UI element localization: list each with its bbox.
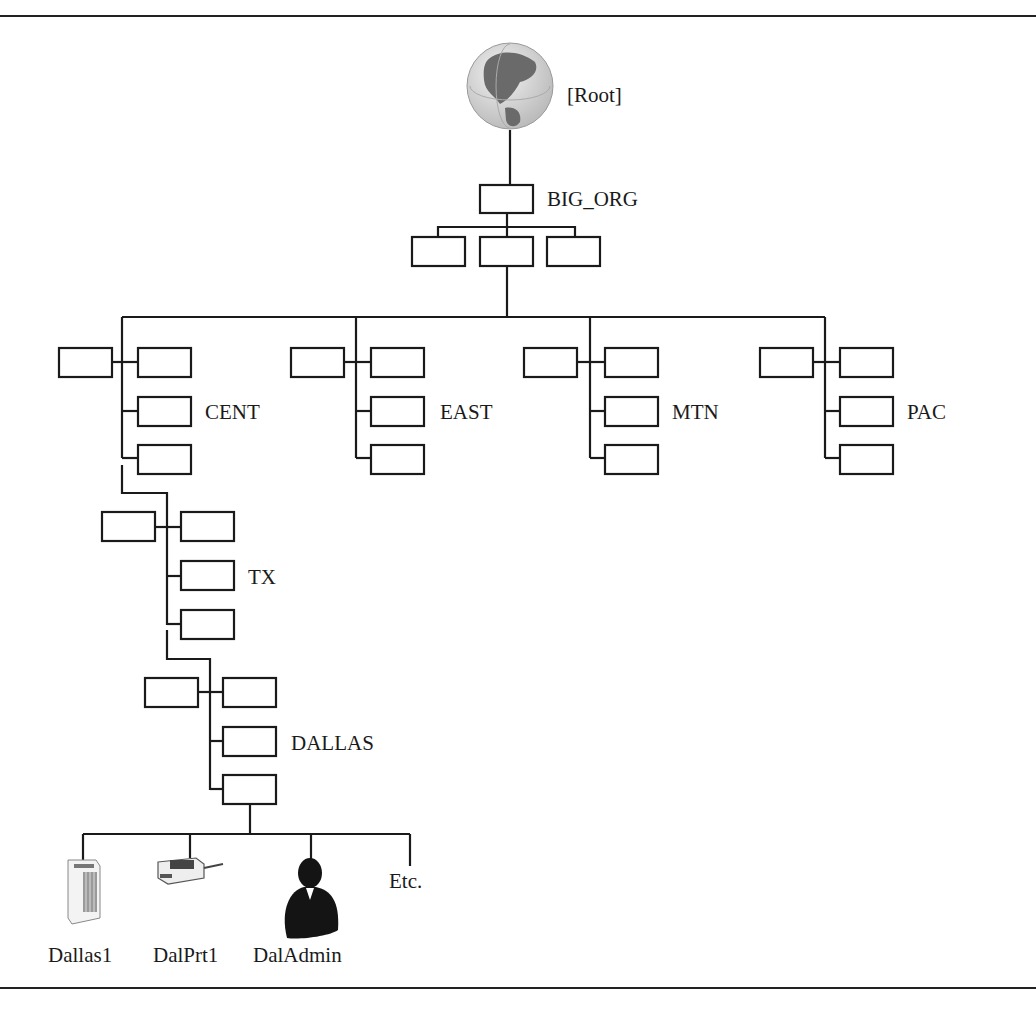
leaf-label-dallas1: Dallas1 <box>48 943 112 967</box>
region-label-east: EAST <box>440 400 493 424</box>
state-tx: TX <box>102 512 276 639</box>
city-label-dallas: DALLAS <box>291 731 374 755</box>
state-label-tx: TX <box>248 565 276 589</box>
region-cent: CENT <box>59 317 260 474</box>
region-label-pac: PAC <box>907 400 946 424</box>
region-east: EAST <box>291 317 493 474</box>
big-org-node <box>480 185 533 213</box>
region-label-mtn: MTN <box>672 400 719 424</box>
globe-icon <box>467 43 553 129</box>
printer-icon <box>158 858 223 884</box>
server-icon <box>68 860 100 924</box>
region-pac: PAC <box>760 317 946 474</box>
city-dallas: DALLAS <box>145 678 374 804</box>
user-silhouette-icon <box>285 858 339 939</box>
leaf-label-daladmin: DalAdmin <box>253 943 342 967</box>
leaf-label-etc: Etc. <box>389 869 422 893</box>
region-label-cent: CENT <box>205 400 260 424</box>
tree-diagram: [Root] BIG_ORG CENT EAST <box>0 0 1036 1023</box>
big-org-label: BIG_ORG <box>547 187 638 211</box>
region-mtn: MTN <box>524 317 719 474</box>
leaf-label-dalprt1: DalPrt1 <box>153 943 218 967</box>
root-label: [Root] <box>567 83 622 107</box>
